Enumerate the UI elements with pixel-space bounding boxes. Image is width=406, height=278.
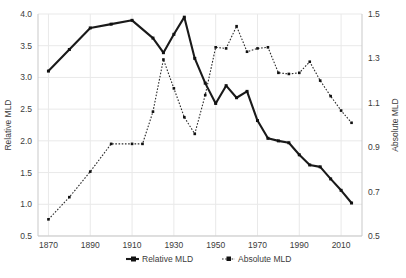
data-point-absolute-mld <box>256 47 259 50</box>
y-axis-left-tick-label: 2.5 <box>20 104 32 114</box>
x-axis-tick-label: 1970 <box>248 240 267 250</box>
x-axis-tick-label: 1870 <box>39 240 58 250</box>
x-axis-tick-label: 1990 <box>290 240 309 250</box>
data-point-absolute-mld <box>246 50 249 53</box>
legend-marker-relative-mld <box>131 257 136 262</box>
data-point-relative-mld <box>151 37 154 40</box>
data-point-relative-mld <box>329 177 332 180</box>
data-point-relative-mld <box>246 90 249 93</box>
data-point-absolute-mld <box>308 60 311 63</box>
y-axis-right-tick-label: 1.3 <box>368 53 380 63</box>
y-axis-left-tick-label: 0.5 <box>20 231 32 241</box>
data-point-absolute-mld <box>110 143 113 146</box>
line-chart: 0.51.01.52.02.53.03.54.00.50.70.91.11.31… <box>0 0 406 278</box>
data-point-relative-mld <box>266 137 269 140</box>
data-point-relative-mld <box>68 48 71 51</box>
x-axis-tick-label: 2010 <box>332 240 351 250</box>
y-axis-left-tick-label: 1.0 <box>20 199 32 209</box>
y-axis-left-tick-label: 4.0 <box>20 9 32 19</box>
data-point-relative-mld <box>110 23 113 26</box>
y-axis-right-tick-label: 0.5 <box>368 231 380 241</box>
data-point-relative-mld <box>172 33 175 36</box>
legend-label-relative-mld: Relative MLD <box>142 254 193 264</box>
data-point-absolute-mld <box>152 110 155 113</box>
data-point-relative-mld <box>319 165 322 168</box>
y-axis-left-tick-label: 3.0 <box>20 72 32 82</box>
data-point-absolute-mld <box>68 196 71 199</box>
data-point-absolute-mld <box>340 109 343 112</box>
y-axis-right-tick-label: 0.7 <box>368 187 380 197</box>
y-axis-left-tick-label: 3.5 <box>20 41 32 51</box>
data-point-absolute-mld <box>141 143 144 146</box>
data-point-relative-mld <box>193 57 196 60</box>
data-point-absolute-mld <box>288 73 291 76</box>
x-axis-tick-label: 1930 <box>164 240 183 250</box>
data-point-relative-mld <box>162 51 165 54</box>
series-line-relative-mld <box>48 17 351 203</box>
x-axis-tick-label: 1950 <box>206 240 225 250</box>
data-point-relative-mld <box>47 70 50 73</box>
y-axis-left-title: Relative MLD <box>3 99 13 150</box>
y-axis-left-tick-label: 1.5 <box>20 168 32 178</box>
y-axis-right-tick-label: 0.9 <box>368 142 380 152</box>
y-axis-left-tick-label: 2.0 <box>20 136 32 146</box>
data-point-absolute-mld <box>350 121 353 124</box>
data-point-relative-mld <box>204 82 207 85</box>
data-point-absolute-mld <box>298 72 301 75</box>
data-point-absolute-mld <box>173 87 176 90</box>
data-point-relative-mld <box>277 139 280 142</box>
data-point-relative-mld <box>340 189 343 192</box>
legend-marker-absolute-mld <box>227 257 232 262</box>
data-point-relative-mld <box>214 102 217 105</box>
data-point-relative-mld <box>256 119 259 122</box>
data-point-relative-mld <box>308 163 311 166</box>
series-line-absolute-mld <box>48 26 351 219</box>
data-point-relative-mld <box>298 153 301 156</box>
y-axis-right-title: Absolute MLD <box>390 98 400 151</box>
data-point-absolute-mld <box>225 47 228 50</box>
data-point-relative-mld <box>183 16 186 19</box>
data-point-absolute-mld <box>204 94 207 97</box>
data-point-absolute-mld <box>277 72 280 75</box>
data-point-absolute-mld <box>329 95 332 98</box>
y-axis-right-tick-label: 1.5 <box>368 9 380 19</box>
y-axis-right-tick-label: 1.1 <box>368 98 380 108</box>
data-point-relative-mld <box>235 96 238 99</box>
data-point-relative-mld <box>89 26 92 29</box>
data-point-relative-mld <box>287 141 290 144</box>
data-point-absolute-mld <box>193 133 196 136</box>
data-point-absolute-mld <box>267 46 270 49</box>
data-point-relative-mld <box>225 84 228 87</box>
x-axis-tick-label: 1890 <box>81 240 100 250</box>
data-point-absolute-mld <box>235 25 238 28</box>
data-point-absolute-mld <box>183 116 186 119</box>
data-point-absolute-mld <box>319 79 322 82</box>
x-axis-tick-label: 1910 <box>123 240 142 250</box>
data-point-relative-mld <box>131 19 134 22</box>
legend-label-absolute-mld: Absolute MLD <box>238 254 291 264</box>
data-point-absolute-mld <box>47 218 50 221</box>
data-point-absolute-mld <box>89 170 92 173</box>
chart-container: 0.51.01.52.02.53.03.54.00.50.70.91.11.31… <box>0 0 406 278</box>
data-point-absolute-mld <box>214 46 217 49</box>
data-point-absolute-mld <box>131 143 134 146</box>
data-point-relative-mld <box>350 202 353 205</box>
data-point-absolute-mld <box>162 58 165 61</box>
